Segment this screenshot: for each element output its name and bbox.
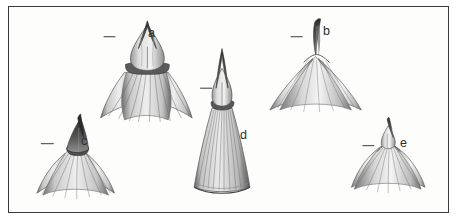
specimen-e-drawing	[351, 118, 425, 194]
plate-frame: a b c d e	[8, 6, 449, 213]
specimen-c-drawing	[37, 114, 115, 199]
specimen-label-e: e	[400, 137, 407, 150]
specimen-b-drawing	[270, 19, 362, 112]
specimen-label-a: a	[148, 27, 155, 40]
specimen-label-c: c	[81, 135, 87, 148]
illustration-plate: a b c d e	[0, 0, 459, 223]
specimen-a-drawing	[101, 21, 193, 122]
specimen-label-d: d	[240, 129, 247, 142]
specimen-figure-canvas	[9, 7, 448, 212]
specimen-label-b: b	[323, 25, 330, 38]
specimen-d-drawing	[194, 49, 250, 194]
